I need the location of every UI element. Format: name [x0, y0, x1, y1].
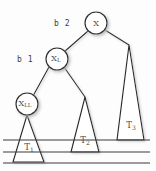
subtree-label-t1-subscript: 1 — [30, 146, 34, 153]
node-leftleft-label-subscript: LL — [24, 102, 32, 108]
edge-left-to-subtree-t2 — [64, 67, 85, 97]
tree-diagram-svg: T3 T2 T1 X XL — [0, 0, 156, 171]
edge-left-to-leftleft — [33, 67, 49, 96]
subtree-label-t3-subscript: 3 — [132, 124, 136, 131]
balance-label-left: b 1 — [17, 55, 33, 64]
tree-diagram-canvas: T3 T2 T1 X XL — [0, 0, 156, 171]
subtree-label-t2-subscript: 2 — [86, 139, 90, 146]
node-left-label-subscript: L — [57, 57, 61, 63]
edge-root-to-subtree-t3 — [105, 30, 129, 45]
subtree-triangle-t1 — [13, 115, 44, 162]
node-leftleft: XLL — [16, 93, 38, 115]
edge-root-to-left — [64, 31, 88, 52]
node-left: XL — [46, 48, 68, 70]
node-root-label: X — [93, 19, 99, 28]
node-root-label-base: X — [93, 19, 99, 28]
node-root: X — [85, 12, 107, 34]
balance-label-root: b 2 — [54, 19, 70, 28]
